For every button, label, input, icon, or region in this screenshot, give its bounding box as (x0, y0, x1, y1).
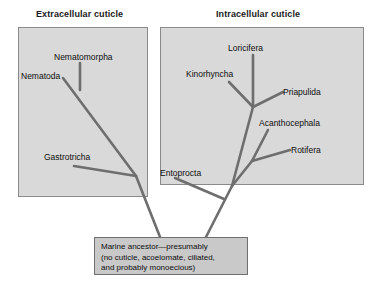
taxon-label-priapulida: Priapulida (283, 87, 321, 97)
trunk-extracellular (136, 176, 160, 237)
taxon-label-kinorhyncha: Kinorhyncha (186, 69, 233, 79)
caption-line-3: and probably monoecious) (101, 263, 241, 274)
taxon-label-nematomorpha: Nematomorpha (54, 52, 113, 62)
taxon-label-acanthocephala: Acanthocephala (259, 118, 320, 128)
branch-gastrotricha (74, 166, 136, 176)
caption-line-1: Marine ancestor—presumably (101, 242, 241, 253)
caption-line-2: (no cuticle, acoelomate, ciliated, (101, 253, 241, 264)
branch-priapulida (253, 92, 283, 107)
taxon-label-entoprocta: Entoprocta (160, 168, 201, 178)
taxon-label-loricifera: Loricifera (228, 43, 263, 53)
ancestor-caption-box: Marine ancestor—presumably (no cuticle, … (94, 237, 248, 275)
taxon-label-gastrotricha: Gastrotricha (44, 152, 90, 162)
branch-kinorhyncha (229, 82, 253, 107)
taxon-label-nematoda: Nematoda (21, 71, 60, 81)
branch-entoprocta (175, 178, 224, 199)
phylogeny-figure: Extracellular cuticle Intracellular cuti… (0, 0, 380, 290)
taxon-label-rotifera: Rotifera (291, 145, 321, 155)
